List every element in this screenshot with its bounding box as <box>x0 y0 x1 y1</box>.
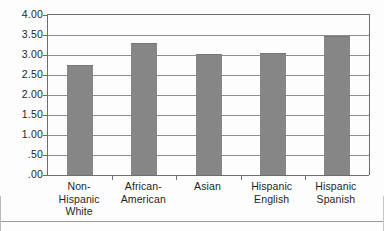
x-tick-label: Asian <box>175 180 239 193</box>
gridline <box>48 175 369 176</box>
bar <box>196 54 222 175</box>
gridline <box>48 35 369 36</box>
y-tick-label: 2.50 <box>3 69 43 80</box>
x-tick-label-line1: Hispanic <box>251 180 292 192</box>
y-tick-mark <box>43 135 48 136</box>
y-tick-mark <box>43 75 48 76</box>
x-tick-label-line2: White <box>47 205 111 218</box>
x-tick-label-line1: Asian <box>194 180 221 192</box>
y-tick-mark <box>43 155 48 156</box>
x-tick-label: HispanicSpanish <box>304 180 368 205</box>
x-tick-label-line1: Non-Hispanic <box>59 180 100 205</box>
y-tick-label: 3.00 <box>3 49 43 60</box>
y-tick-label: 3.50 <box>3 29 43 40</box>
y-tick-label: .50 <box>3 149 43 160</box>
bar <box>67 65 93 175</box>
x-tick-label-line1: Hispanic <box>315 180 356 192</box>
y-tick-mark <box>43 95 48 96</box>
y-axis-tick-labels: 4.003.503.002.502.001.501.00.50.00 <box>0 0 43 231</box>
x-tick-label-line2: English <box>240 193 304 206</box>
y-tick-mark <box>43 15 48 16</box>
y-tick-mark <box>43 35 48 36</box>
y-tick-mark <box>43 175 48 176</box>
y-tick-label: 1.00 <box>3 129 43 140</box>
bar <box>131 43 157 175</box>
x-tick-label: African-American <box>111 180 175 205</box>
bar <box>324 36 350 175</box>
x-tick-label: Non-HispanicWhite <box>47 180 111 218</box>
x-tick-label-line2: American <box>111 193 175 206</box>
y-tick-mark <box>43 115 48 116</box>
y-tick-mark <box>43 55 48 56</box>
bar <box>260 53 286 175</box>
y-tick-label: 2.00 <box>3 89 43 100</box>
y-tick-label: 4.00 <box>3 9 43 20</box>
x-tick-label: HispanicEnglish <box>240 180 304 205</box>
x-tick-label-line1: African- <box>125 180 162 192</box>
bar-chart-figure: 4.003.503.002.502.001.501.00.50.00 Non-H… <box>0 0 384 231</box>
x-tick-label-line2: Spanish <box>304 193 368 206</box>
y-tick-label: 1.50 <box>3 109 43 120</box>
x-axis-tick-labels: Non-HispanicWhiteAfrican-AmericanAsianHi… <box>47 180 368 220</box>
y-tick-label: .00 <box>3 169 43 180</box>
plot-area <box>47 14 370 175</box>
